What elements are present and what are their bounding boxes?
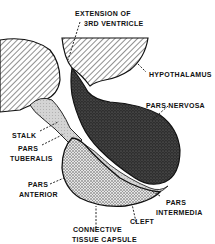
label-connective-tissue-capsule-line1: CONNECTIVE bbox=[73, 226, 122, 233]
label-cleft: CLEFT bbox=[130, 218, 154, 225]
label-pars-anterior-line1: PARS bbox=[28, 181, 48, 188]
label-stalk: STALK bbox=[12, 132, 36, 139]
label-pars-intermedia-line1: PARS bbox=[166, 199, 186, 206]
label-pars-tuberalis-line1: PARS bbox=[18, 145, 38, 152]
label-hypothalamus: HYPOTHALAMUS bbox=[149, 71, 212, 78]
label-pars-tuberalis-line2: TUBERALIS bbox=[10, 155, 53, 162]
label-pars-intermedia-line2: INTERMEDIA bbox=[156, 209, 203, 216]
label-pars-anterior-line2: ANTERIOR bbox=[19, 191, 58, 198]
pituitary-diagram: EXTENSION OF 3RD VENTRICLE HYPOTHALAMUS … bbox=[0, 0, 215, 244]
label-pars-nervosa: PARS NERVOSA bbox=[146, 102, 205, 109]
label-extension-3rd-ventricle-line2: 3RD VENTRICLE bbox=[84, 20, 144, 27]
label-connective-tissue-capsule-line2: TISSUE CAPSULE bbox=[72, 236, 137, 243]
label-extension-3rd-ventricle-line1: EXTENSION OF bbox=[75, 10, 131, 17]
